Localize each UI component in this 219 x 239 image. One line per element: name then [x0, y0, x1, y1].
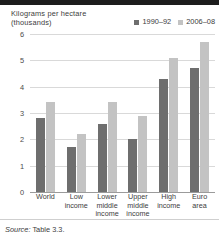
bar-groups [30, 34, 215, 192]
y-axis-title-line-2: (thousands) [11, 18, 107, 27]
top-rule-divider [0, 0, 219, 5]
y-tick-label: 1 [20, 161, 24, 170]
x-axis-label: Lowincome [61, 193, 92, 219]
bar-series-2006-08 [108, 102, 117, 192]
bar-group [153, 34, 184, 192]
y-axis: 0123456 [0, 34, 30, 192]
source-label: Source: [5, 225, 30, 234]
legend-label-1990-92: 1990–92 [142, 18, 171, 26]
bar-series-1990-92 [159, 79, 168, 192]
legend-label-2006-08: 2006–08 [186, 18, 215, 26]
x-axis-label-line: World [31, 193, 60, 202]
grid-area [30, 34, 215, 192]
bar-series-2006-08 [200, 42, 209, 192]
legend-item-2006-08: 2006–08 [178, 18, 215, 26]
y-tick-label: 0 [20, 188, 24, 197]
x-axis-label-line: area [185, 202, 214, 211]
bar-group [184, 34, 215, 192]
y-tick-label: 5 [20, 56, 24, 65]
footer-divider [0, 219, 219, 220]
x-axis-label-line: income [123, 210, 152, 219]
x-axis-label: Lowermiddleincome [92, 193, 123, 219]
x-axis-label: Euroarea [184, 193, 215, 219]
x-axis-label-line: income [93, 210, 122, 219]
bar-series-2006-08 [138, 116, 147, 192]
legend-swatch-2006-08 [178, 20, 183, 25]
y-tick-label: 2 [20, 135, 24, 144]
source-value: Table 3.3. [32, 225, 64, 234]
bar-series-2006-08 [46, 102, 55, 192]
y-tick-label: 6 [20, 30, 24, 39]
source-note: Source: Table 3.3. [5, 225, 64, 234]
y-tick-label: 4 [20, 82, 24, 91]
chart-header: Kilograms per hectare (thousands) 1990–9… [0, 9, 219, 35]
x-axis-label: World [30, 193, 61, 219]
bar-series-1990-92 [36, 118, 45, 192]
y-tick-label: 3 [20, 109, 24, 118]
bar-series-1990-92 [98, 124, 107, 192]
bar-series-1990-92 [128, 139, 137, 192]
bar-group [122, 34, 153, 192]
x-axis-labels: WorldLowincomeLowermiddleincomeUppermidd… [30, 193, 215, 219]
bar-series-2006-08 [77, 134, 86, 192]
bar-group [92, 34, 123, 192]
figure-container: Kilograms per hectare (thousands) 1990–9… [0, 0, 219, 239]
chart-legend: 1990–92 2006–08 [134, 18, 215, 26]
x-axis-label-line: income [62, 202, 91, 211]
y-axis-title: Kilograms per hectare (thousands) [11, 9, 107, 28]
plot-area: 0123456 [0, 34, 219, 192]
x-axis-label-line: income [154, 202, 183, 211]
legend-swatch-1990-92 [134, 20, 139, 25]
x-axis-label: Highincome [153, 193, 184, 219]
bar-series-1990-92 [190, 68, 199, 192]
bar-series-2006-08 [169, 58, 178, 192]
y-axis-title-line-1: Kilograms per hectare [11, 9, 107, 18]
bar-group [61, 34, 92, 192]
legend-item-1990-92: 1990–92 [134, 18, 171, 26]
bar-group [30, 34, 61, 192]
x-axis-label: Uppermiddleincome [122, 193, 153, 219]
bar-series-1990-92 [67, 147, 76, 192]
